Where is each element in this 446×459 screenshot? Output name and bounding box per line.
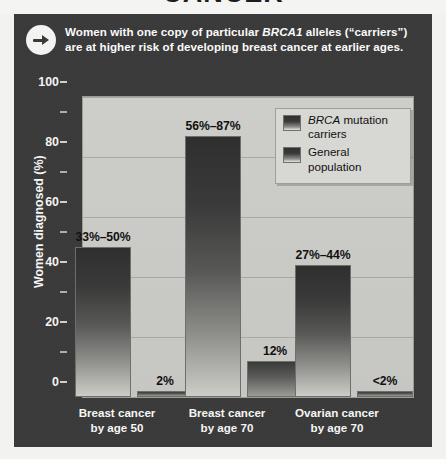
gridline [83,217,413,218]
x-axis-label: Ovarian cancerby age 70 [282,406,392,435]
y-tick-mark-minor [60,351,67,353]
y-tick-mark [60,261,67,263]
callout: Women with one copy of particular BRCA1 … [22,22,422,64]
y-tick-label: 40 [45,256,59,268]
y-tick-mark-minor [60,171,67,173]
legend: BRCA mutation carriers General populatio… [275,108,411,184]
bar-value-label: 12% [233,344,317,358]
arrow-right-circle-icon [26,25,56,55]
x-axis-label-line: by age 70 [282,421,392,436]
gridline [83,337,413,338]
legend-swatch-general [283,147,301,163]
chart-panel: Women with one copy of particular BRCA1 … [14,14,432,447]
y-tick-mark [60,321,67,323]
legend-swatch-carriers [283,115,301,131]
y-tick-label: 80 [45,136,59,148]
x-axis-label-line: by age 50 [62,421,172,436]
legend-label-general: General population [308,145,404,173]
bar-value-label: 56%–87% [171,119,255,133]
y-tick-label: 100 [38,76,59,88]
y-tick-label: 20 [45,316,59,328]
x-axis-label: Breast cancerby age 70 [172,406,282,435]
y-tick-mark [60,381,67,383]
gridline [83,277,413,278]
clipped-title-strip: CANCER [0,0,446,14]
infographic-page: CANCER Women with one copy of particular… [0,0,446,459]
bar-value-label: 27%–44% [281,248,365,262]
bar-value-label: 33%–50% [61,230,145,244]
x-axis-label-line: by age 70 [172,421,282,436]
x-axis-label-line: Breast cancer [62,406,172,421]
callout-gene-name: BRCA1 [262,25,302,38]
legend-item: General population [276,141,410,173]
y-tick-mark [60,141,67,143]
callout-text-part1: Women with one copy of particular [65,25,262,38]
y-tick-mark-minor [60,111,67,113]
y-axis-title: Women diagnosed (%) [32,155,46,288]
page-title: CANCER [0,0,446,7]
bar-value-label: <2% [343,374,427,388]
y-tick-label: 60 [45,196,59,208]
x-axis-label-line: Ovarian cancer [282,406,392,421]
bar [357,391,413,397]
gridline [83,97,413,98]
callout-text: Women with one copy of particular BRCA1 … [65,22,422,54]
legend-item: BRCA mutation carriers [276,109,410,141]
bar-value-label: 2% [123,374,207,388]
y-tick-mark [60,81,67,83]
legend-gene-name: BRCA [308,113,340,126]
legend-label-carriers: BRCA mutation carriers [308,113,404,141]
y-tick-label: 0 [52,376,59,388]
x-axis-label-line: Breast cancer [172,406,282,421]
x-axis-label: Breast cancerby age 50 [62,406,172,435]
y-tick-mark [60,201,67,203]
y-tick-mark-minor [60,291,67,293]
